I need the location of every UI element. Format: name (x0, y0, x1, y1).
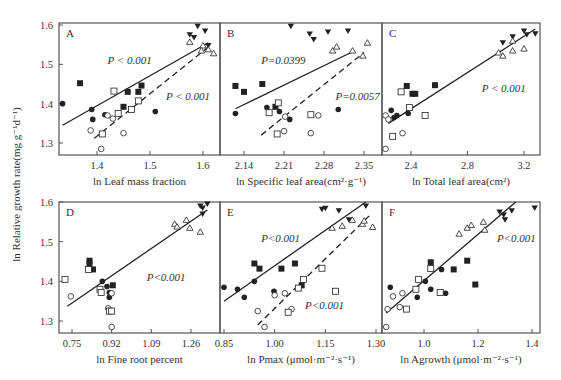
x-tick-label: 1.4 (90, 160, 104, 171)
open-square-marker (428, 266, 434, 272)
open-circle-marker (390, 294, 396, 300)
filled-square-marker (404, 83, 410, 89)
filled-circle-marker (443, 290, 449, 296)
open-square-marker (332, 288, 338, 294)
open-triangle-up-marker (187, 39, 193, 45)
open-triangle-up-marker (468, 222, 474, 228)
filled-circle-marker (388, 108, 394, 114)
open-square-marker (115, 111, 121, 117)
open-square-marker (403, 306, 409, 312)
filled-square-marker (121, 104, 127, 110)
panel-a: A1.31.41.51.61.41.51.6ln Leaf mass fract… (40, 20, 220, 187)
open-square-marker (128, 107, 134, 113)
filled-circle-marker (414, 294, 420, 300)
open-square-marker (308, 112, 314, 118)
filled-circle-marker (89, 107, 95, 113)
x-tick-label: 0.92 (102, 338, 120, 349)
x-tick-label: 2.35 (355, 160, 373, 171)
filled-circle-marker (335, 107, 341, 113)
filled-square-marker (464, 258, 470, 264)
open-circle-marker (386, 117, 392, 123)
open-circle-marker (397, 304, 403, 310)
p-value-annotation: P<0.001 (260, 232, 300, 244)
open-square-marker (416, 276, 422, 282)
x-tick-label: 2.14 (235, 160, 254, 171)
open-triangle-up-marker (360, 53, 366, 59)
panel-e: E0.851.001.151.30ln Pmax (μmol·m⁻²·s⁻¹)P… (215, 202, 385, 366)
filled-triangle-down-marker (307, 32, 313, 37)
filled-triangle-down-marker (202, 28, 208, 34)
open-square-marker (407, 105, 413, 111)
filled-triangle-down-marker (325, 30, 331, 36)
open-square-marker (274, 131, 280, 137)
open-triangle-up-marker (197, 229, 203, 235)
filled-square-marker (278, 266, 284, 272)
panel-c: C2.42.83.2ln Total leaf area(cm²)P < 0.0… (382, 23, 540, 188)
panel-label: B (227, 27, 234, 39)
filled-square-marker (135, 89, 141, 95)
y-tick-label: 1.3 (40, 316, 53, 327)
filled-circle-marker (100, 279, 106, 285)
filled-circle-marker (405, 111, 411, 117)
filled-square-marker (259, 81, 265, 87)
x-tick-label: 0.85 (215, 338, 233, 349)
filled-square-marker (256, 266, 262, 272)
filled-triangle-down-marker (311, 37, 317, 43)
filled-square-marker (87, 261, 93, 267)
x-tick-label: 1.30 (367, 338, 385, 349)
p-value-annotation: P=0.0057 (334, 90, 380, 102)
open-square-marker (398, 89, 404, 95)
p-value-annotation: P < 0.001 (481, 82, 526, 94)
x-tick-label: 1.15 (316, 338, 334, 349)
y-tick-label: 1.6 (40, 20, 53, 31)
open-circle-marker (272, 292, 278, 298)
open-triangle-up-marker (349, 48, 355, 54)
x-axis-label: ln Leaf mass fraction (93, 175, 187, 187)
p-value-annotation: P < 0.001 (165, 90, 210, 102)
open-square-marker (109, 308, 115, 314)
open-square-marker (99, 131, 105, 137)
x-tick-label: 1.09 (142, 338, 160, 349)
filled-square-marker (77, 80, 83, 86)
x-tick-label: 2.8 (461, 160, 474, 171)
open-square-marker (62, 276, 68, 282)
open-circle-marker (255, 308, 261, 314)
p-value-annotation: P=0.0399 (260, 54, 306, 66)
panel-label: D (66, 206, 74, 218)
y-tick-label: 1.4 (40, 99, 54, 110)
open-square-marker (422, 112, 428, 118)
filled-triangle-down-marker (191, 35, 197, 41)
open-square-marker (111, 88, 117, 94)
filled-square-marker (451, 266, 457, 272)
open-triangle-up-marker (480, 219, 486, 225)
filled-circle-marker (235, 286, 241, 292)
solid-fit-line (386, 202, 516, 313)
open-circle-marker (400, 130, 406, 136)
open-square-marker (295, 285, 301, 291)
filled-square-marker (110, 282, 116, 288)
filled-square-marker (472, 282, 478, 288)
p-value-annotation: P<0.001 (304, 299, 344, 311)
p-value-annotation: P<0.001 (146, 271, 186, 283)
open-circle-marker (282, 290, 288, 296)
open-triangle-up-marker (333, 44, 339, 50)
p-value-annotation: P < 0.001 (107, 54, 152, 66)
open-triangle-up-marker (482, 227, 488, 233)
filled-circle-marker (387, 284, 393, 290)
y-tick-label: 1.5 (40, 237, 53, 248)
open-circle-marker (385, 306, 391, 312)
open-square-marker (390, 133, 396, 139)
filled-circle-marker (439, 267, 445, 273)
open-circle-marker (282, 114, 288, 120)
open-circle-marker (88, 128, 94, 134)
panel-label: C (389, 27, 396, 39)
filled-circle-marker (252, 279, 258, 285)
x-axis-label: ln Total leaf area(cm²) (412, 175, 510, 188)
filled-square-marker (428, 259, 434, 265)
open-square-marker (285, 309, 291, 315)
filled-circle-marker (233, 111, 239, 117)
filled-square-marker (292, 260, 298, 266)
open-circle-marker (121, 130, 127, 136)
open-square-marker (98, 289, 104, 295)
open-triangle-up-marker (521, 46, 527, 52)
